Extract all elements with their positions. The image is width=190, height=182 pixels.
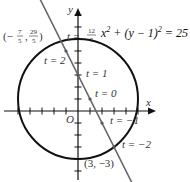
- svg-text:5: 5: [90, 36, 94, 44]
- svg-text:x2 + (y − 1)2 = 25: x2 + (y − 1)2 = 25: [100, 25, 188, 40]
- eq-rhs: = 25: [162, 26, 188, 40]
- eq-middle: + (y − 1): [110, 26, 158, 40]
- t-point: [88, 97, 91, 100]
- svg-text:t =: t =: [67, 30, 80, 42]
- svg-text:7: 7: [18, 28, 22, 36]
- intersection-label-top: (− 7 5 , 29 5 ): [3, 28, 43, 45]
- svg-text:5: 5: [18, 37, 22, 45]
- t-point: [64, 49, 67, 52]
- t-point: [76, 73, 79, 76]
- parametric-line-circle-diagram: y x O x2 + (y − 1)2 = 25 t = 2 t = 1 t =…: [0, 0, 190, 182]
- svg-text:29: 29: [30, 28, 38, 36]
- t-label-1: t = 1: [86, 67, 107, 79]
- svg-text:5: 5: [32, 37, 36, 45]
- t-point: [100, 121, 103, 124]
- svg-text:12: 12: [88, 27, 96, 35]
- t-label-minus1: t = −1: [110, 114, 139, 126]
- x-axis-label: x: [145, 96, 151, 108]
- t-point: [112, 145, 115, 148]
- y-axis-label: y: [67, 3, 73, 15]
- svg-text:): ): [39, 30, 43, 43]
- t-label-minus2: t = −2: [122, 138, 151, 150]
- t-label-2: t = 2: [44, 54, 66, 66]
- t-label-12-5: t = 12 5: [67, 27, 96, 44]
- t-label-0: t = 0: [95, 87, 117, 99]
- circle-equation: x2 + (y − 1)2 = 25: [100, 25, 188, 40]
- intersection-label-bottom: (3, −3): [84, 157, 114, 170]
- svg-text:(−: (−: [3, 30, 13, 43]
- svg-text:,: ,: [25, 30, 28, 42]
- x-axis-arrow-icon: [148, 108, 156, 115]
- origin-label: O: [66, 113, 74, 125]
